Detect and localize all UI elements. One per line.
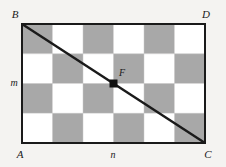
checker-cell-white: [83, 54, 114, 84]
checker-cell-shaded: [53, 54, 84, 84]
point-f-marker: [110, 80, 118, 88]
checker-cell-shaded: [114, 113, 145, 143]
vertex-label-c: C: [204, 148, 212, 160]
checker-cell-white: [114, 84, 145, 114]
checker-cell-shaded: [53, 113, 84, 143]
side-label-n: n: [111, 149, 116, 160]
figure-canvas: B D A C m n F: [0, 0, 226, 167]
checker-cell-white: [144, 113, 175, 143]
checker-cell-white: [53, 24, 84, 54]
checker-cell-shaded: [144, 84, 175, 114]
side-label-m: m: [10, 77, 17, 88]
checker-cell-shaded: [83, 84, 114, 114]
checker-cell-white: [175, 24, 206, 54]
point-label-f: F: [118, 67, 126, 78]
geometry-figure: B D A C m n F: [0, 0, 226, 167]
checker-cell-shaded: [175, 113, 206, 143]
checker-cell-white: [144, 54, 175, 84]
vertex-label-d: D: [201, 8, 210, 20]
checker-cell-white: [53, 84, 84, 114]
checker-cell-white: [22, 113, 53, 143]
checker-cell-shaded: [83, 24, 114, 54]
checker-cell-shaded: [22, 84, 53, 114]
checker-cell-shaded: [175, 54, 206, 84]
checker-cell-white: [175, 84, 206, 114]
checker-cell-shaded: [144, 24, 175, 54]
checker-cell-white: [114, 24, 145, 54]
checker-cell-shaded: [22, 24, 53, 54]
checker-cell-white: [22, 54, 53, 84]
checker-cell-white: [83, 113, 114, 143]
vertex-label-a: A: [16, 148, 24, 160]
vertex-label-b: B: [12, 8, 19, 20]
